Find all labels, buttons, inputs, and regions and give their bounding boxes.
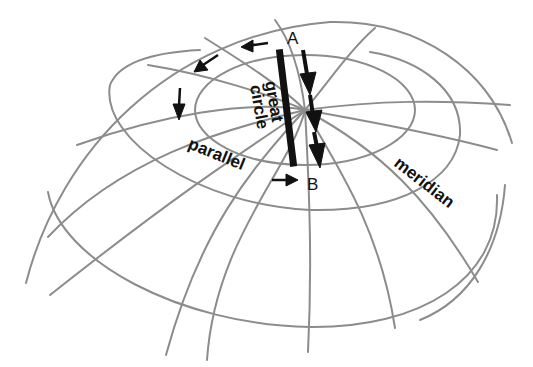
globe-diagram: A B great circle parallel meridian (0, 0, 533, 367)
parallel-label: parallel (186, 134, 248, 174)
globe-outline (26, 22, 512, 320)
arrow-down-icon (306, 110, 322, 132)
arrow-left-icon (241, 40, 253, 52)
arrow-right-icon (286, 174, 298, 186)
meridian-label: meridian (391, 153, 459, 212)
point-a-label: A (287, 29, 299, 48)
point-b-label: B (307, 175, 318, 194)
